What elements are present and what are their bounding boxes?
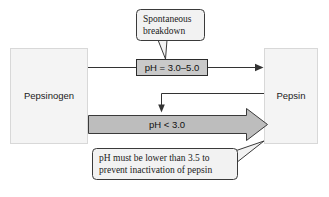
feedback-arrowhead [158, 105, 165, 113]
ph-condition-spontaneous-label: pH = 3.0–5.0 [145, 62, 200, 73]
spontaneous-callout-line1: Spontaneous [143, 14, 192, 24]
diagram-canvas: Pepsinogen Pepsin pH = 3.0–5.0 Spontaneo… [0, 0, 329, 197]
spontaneous-callout-tail [158, 40, 167, 59]
pepsin-box: Pepsin [265, 49, 318, 144]
ph-condition-autocatalytic-label: pH < 3.0 [149, 119, 185, 130]
pepsin-label: Pepsin [276, 90, 305, 101]
pepsin-activation-diagram: Pepsinogen Pepsin pH = 3.0–5.0 Spontaneo… [0, 0, 329, 197]
ph-warning-callout-line1: pH must be lower than 3.5 to [99, 153, 210, 163]
ph-warning-callout: pH must be lower than 3.5 to prevent ina… [93, 141, 265, 180]
pepsinogen-label: Pepsinogen [24, 90, 74, 101]
spontaneous-breakdown-callout: Spontaneous breakdown [137, 10, 205, 60]
pepsinogen-box: Pepsinogen [11, 49, 88, 144]
autocatalysis-block-arrow: pH < 3.0 [89, 109, 268, 141]
spontaneous-callout-line2: breakdown [143, 26, 185, 36]
feedback-line-path [162, 94, 265, 108]
ph-warning-callout-line2: prevent inactivation of pepsin [99, 165, 212, 175]
reaction-arrowhead [255, 64, 264, 71]
ph-condition-spontaneous: pH = 3.0–5.0 [137, 60, 208, 76]
